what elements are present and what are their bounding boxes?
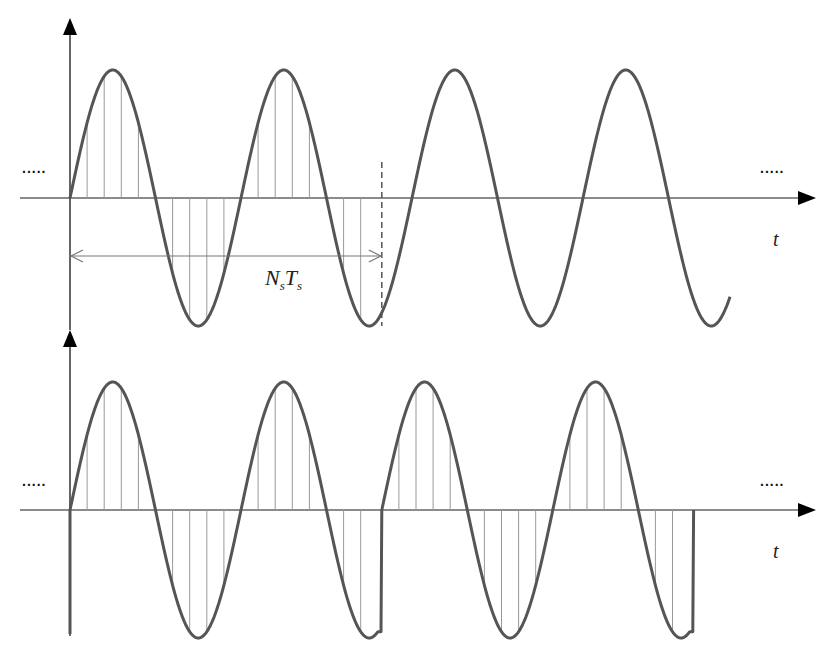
ellipsis-right-top: ..... xyxy=(760,160,784,176)
top-time-axis-arrowhead-icon xyxy=(798,191,816,205)
ellipsis-right-bottom: ..... xyxy=(760,473,784,489)
bottom-time-axis-arrowhead-icon xyxy=(798,503,816,517)
t-axis-label-top: t xyxy=(773,228,779,251)
top-amplitude-axis-arrowhead-icon xyxy=(63,18,77,35)
t-axis-label-bottom: t xyxy=(773,540,779,563)
window-length-label: NsTs xyxy=(265,265,302,294)
ellipsis-left-top: ..... xyxy=(22,160,46,176)
ellipsis-left-bottom: ..... xyxy=(22,473,46,489)
spectral-leakage-diagram xyxy=(0,0,837,665)
window-label-n: N xyxy=(265,265,280,290)
window-label-t: T xyxy=(285,265,297,290)
window-label-sub-s2: s xyxy=(297,278,302,293)
bottom-amplitude-axis-arrowhead-icon xyxy=(63,330,77,347)
